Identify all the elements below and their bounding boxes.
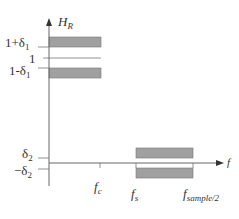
- label-1-plus-delta1: 1+δ1: [5, 36, 29, 49]
- y-axis-arrow-icon: [46, 18, 52, 26]
- stopband-lower-band: [136, 168, 193, 178]
- label-minus-delta2: −δ2: [14, 164, 32, 177]
- label-1-minus-delta1: 1-δ1: [9, 64, 30, 77]
- x-axis-label: f: [227, 156, 230, 169]
- x-axis-arrow-icon: [216, 160, 224, 166]
- y-axis-label: HR: [58, 15, 73, 28]
- passband-lower-band: [49, 68, 101, 78]
- label-delta2: δ2: [22, 147, 33, 160]
- stopband-upper-band: [136, 148, 193, 158]
- label-fc: fc: [94, 180, 102, 193]
- label-fs: fs: [131, 187, 138, 200]
- passband-upper-band: [49, 37, 101, 47]
- label-fsample2: fsample/2: [183, 187, 219, 200]
